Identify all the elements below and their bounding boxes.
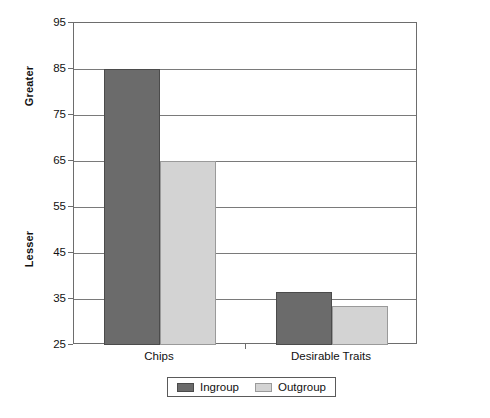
y-axis-tick-labels: 9585756555453525 (38, 0, 66, 418)
y-axis-tick-label: 35 (38, 292, 66, 304)
chart-legend: IngroupOutgroup (167, 377, 336, 397)
bar-ingroup-desirable-traits (276, 292, 332, 345)
x-axis-category-label: Desirable Traits (291, 350, 371, 362)
bar-outgroup-desirable-traits (332, 306, 388, 345)
y-axis-label-greater: Greater (23, 51, 35, 121)
legend-label: Outgroup (278, 381, 326, 393)
legend-entry-outgroup: Outgroup (255, 381, 326, 393)
y-axis-tick-mark (68, 344, 73, 345)
x-axis-tick-mark (245, 344, 246, 349)
y-axis-tick-label: 95 (38, 16, 66, 28)
legend-label: Ingroup (200, 381, 239, 393)
x-axis-category-label: Chips (144, 350, 173, 362)
y-axis-tick-label: 85 (38, 62, 66, 74)
y-axis-tick-label: 45 (38, 246, 66, 258)
legend-swatch-ingroup (177, 383, 194, 392)
legend-entry-ingroup: Ingroup (177, 381, 239, 393)
plot-area (73, 22, 417, 344)
y-axis-tick-label: 75 (38, 108, 66, 120)
bar-outgroup-chips (160, 161, 216, 345)
bar-ingroup-chips (104, 69, 160, 345)
y-axis-tick-label: 65 (38, 154, 66, 166)
y-axis-tick-label: 25 (38, 338, 66, 350)
legend-swatch-outgroup (255, 383, 272, 392)
y-axis-tick-label: 55 (38, 200, 66, 212)
y-axis-label-lesser: Lesser (23, 214, 35, 284)
bar-chart: Greater Lesser 9585756555453525 ChipsDes… (0, 0, 490, 418)
